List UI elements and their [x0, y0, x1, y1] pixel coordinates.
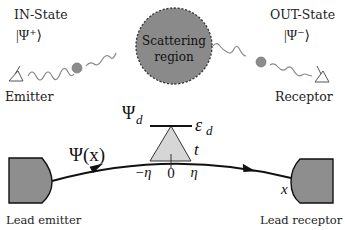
out-state-ket: |Ψ⁻⟩	[284, 28, 310, 43]
dot-state-label: Ψ	[122, 103, 136, 123]
coord-center: 0	[167, 165, 175, 181]
incoming-wave	[28, 68, 74, 80]
coupling-label: t	[194, 140, 200, 159]
scattering-diagram: IN-State |Ψ⁺⟩ OUT-State |Ψ⁻⟩ Emitter Sca…	[0, 0, 345, 230]
in-state-ket: |Ψ⁺⟩	[16, 28, 42, 43]
coord-right: η	[190, 164, 197, 180]
x-label: x	[280, 181, 288, 197]
incoming-wave-2	[86, 53, 116, 66]
emitter-label: Emitter	[5, 89, 53, 104]
outgoing-wave	[213, 44, 246, 56]
lead-emitter	[9, 158, 52, 203]
dot-energy-sub: d	[206, 123, 213, 138]
outgoing-particle	[256, 57, 266, 67]
lead-receptor-label: Lead receptor	[260, 213, 343, 227]
receptor-label: Receptor	[275, 89, 333, 104]
wavefunction-label: Ψ(x)	[69, 144, 105, 166]
coord-left: −η	[135, 164, 152, 180]
dot-energy-label: ε	[195, 115, 203, 135]
dot-state-sub: d	[136, 112, 143, 127]
in-state-title: IN-State	[14, 7, 68, 22]
incoming-particle	[72, 63, 82, 73]
scattering-region-line2: region	[154, 50, 194, 64]
emitter-detector-icon	[9, 66, 23, 81]
outgoing-wave-2	[270, 64, 312, 76]
receptor-detector-icon	[315, 66, 329, 82]
wire-arrow-right	[241, 164, 256, 174]
out-state-title: OUT-State	[270, 7, 335, 22]
lead-emitter-label: Lead emitter	[6, 213, 82, 227]
scattering-region-line1: Scattering	[142, 34, 206, 48]
lead-receptor	[291, 159, 333, 203]
